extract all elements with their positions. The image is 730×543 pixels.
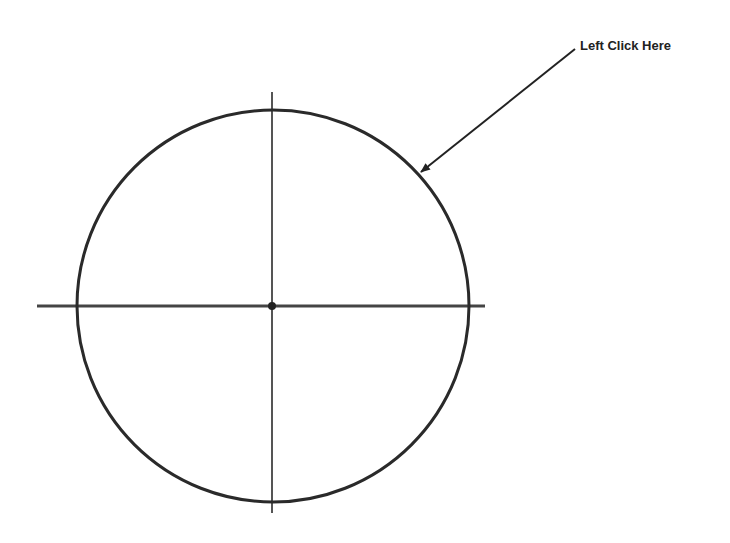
arrow-pointer-icon xyxy=(421,49,575,172)
left-click-here-annotation: Left Click Here xyxy=(580,38,671,53)
center-point xyxy=(268,302,276,310)
circle-diagram-canvas xyxy=(0,0,730,543)
